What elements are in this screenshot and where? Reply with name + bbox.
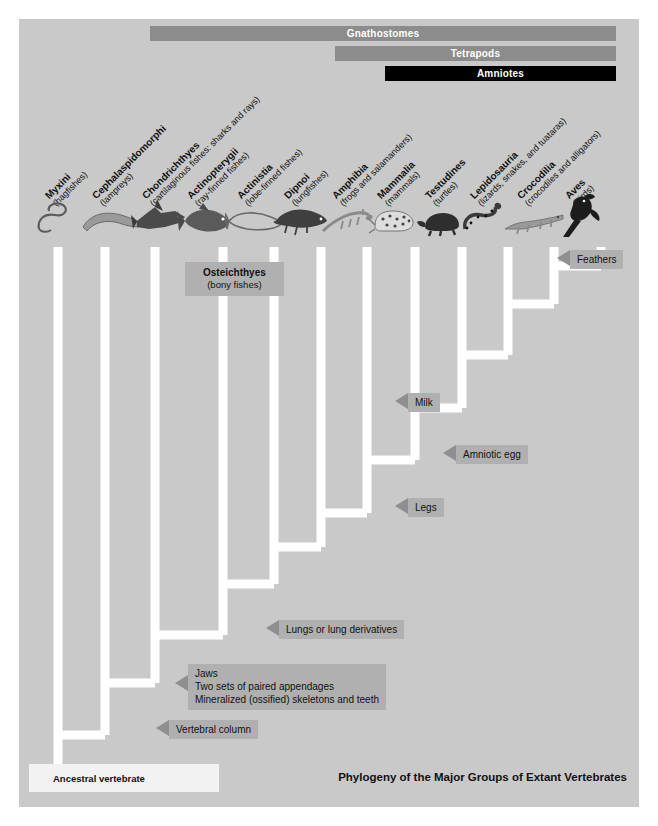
trait-text-line: Two sets of paired appendages (195, 680, 379, 693)
trait-text: Feathers (577, 254, 616, 265)
trait-text: Legs (415, 502, 437, 513)
trait-arrow-vertebral-column (156, 720, 169, 736)
phylogeny-figure: Gnathostomes Tetrapods Amniotes Myxini (… (19, 19, 639, 807)
trait-label-lungs: Lungs or lung derivatives (279, 620, 404, 639)
ancestral-vertebrate-box: Ancestral vertebrate (29, 764, 219, 792)
clade-callout-osteichthyes: Osteichthyes (bony fishes) (185, 262, 284, 296)
trait-text: Vertebral column (176, 724, 251, 735)
figure-title: Phylogeny of the Major Groups of Extant … (338, 771, 627, 783)
trait-text: Milk (415, 397, 433, 408)
trait-arrow-amniotic-egg (443, 445, 456, 461)
ancestral-vertebrate-label: Ancestral vertebrate (29, 773, 145, 784)
trait-arrow-milk (395, 393, 408, 409)
trait-label-feathers: Feathers (570, 250, 623, 269)
trait-text: Lungs or lung derivatives (286, 624, 397, 635)
trait-label-milk: Milk (408, 393, 440, 412)
clade-callout-name: Osteichthyes (203, 266, 266, 279)
trait-arrow-legs (395, 498, 408, 514)
trait-arrow-feathers (557, 250, 570, 266)
trait-label-legs: Legs (408, 498, 444, 517)
trait-label-vertebral-column: Vertebral column (169, 720, 258, 739)
trait-arrow-jaws (175, 675, 188, 691)
trait-text-line: Jaws (195, 667, 379, 680)
trait-arrow-lungs (266, 620, 279, 636)
trait-text-line: Mineralized (ossified) skeletons and tee… (195, 693, 379, 706)
clade-callout-common: (bony fishes) (203, 279, 266, 291)
trait-label-amniotic-egg: Amniotic egg (456, 445, 528, 464)
trait-label-jaws: Jaws Two sets of paired appendages Miner… (188, 664, 386, 710)
trait-text: Amniotic egg (463, 449, 521, 460)
